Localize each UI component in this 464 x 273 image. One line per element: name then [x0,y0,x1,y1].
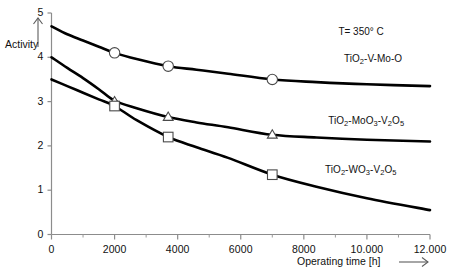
data-point-marker-square [267,170,277,180]
temperature-annotation: T= 350° C [338,26,383,37]
series-legend-label-3: TiO2-WO3-V2O5 [325,164,396,175]
x-axis-title: Operating time [h] [297,255,380,267]
x-tick-label: 6000 [211,243,271,255]
y-tick-label: 0 [20,228,44,240]
series-curve-3 [52,79,431,210]
chart-canvas [0,0,464,273]
x-tick-label: 10.000 [337,243,397,255]
y-tick-label: 1 [20,183,44,195]
series-legend-label-1: TiO2-V-Mo-O [344,53,402,64]
y-tick-label: 5 [20,6,44,18]
data-point-marker-circle [267,74,277,84]
x-tick-label: 2000 [85,243,145,255]
data-point-marker-circle [163,61,173,71]
series-curve-2 [52,57,431,141]
y-tick-label: 3 [20,95,44,107]
x-tick-label: 12.000 [400,243,460,255]
y-tick-label: 2 [20,139,44,151]
series-markers [109,48,277,180]
x-tick-label: 8000 [274,243,334,255]
x-tick-label: 0 [22,243,82,255]
y-axis-title: Activity [5,38,38,50]
y-tick-label: 4 [20,50,44,62]
series-legend-label-2: TiO2-MoO3-V2O5 [328,115,404,126]
data-point-marker-circle [109,48,119,58]
data-point-marker-square [163,132,173,142]
x-tick-label: 4000 [148,243,208,255]
activity-vs-operating-time-chart: 012345 0200040006000800010.00012.000 TiO… [0,0,464,273]
data-point-marker-square [110,101,120,111]
